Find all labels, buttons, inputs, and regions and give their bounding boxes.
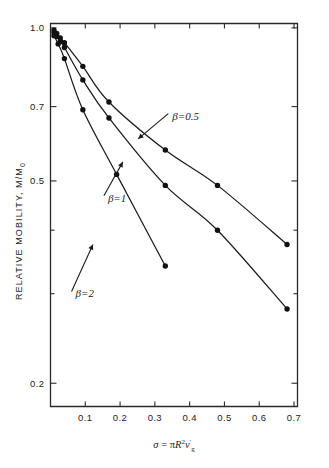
x-tick-label: 0.6 — [252, 412, 266, 423]
data-point — [215, 183, 220, 188]
x-axis-ticks — [85, 24, 294, 407]
data-point — [284, 306, 289, 311]
y-axis-title: RELATIVE MOBILITY, M/M0 — [14, 162, 26, 300]
x-tick-label: 0.3 — [148, 412, 162, 423]
y-axis-tick-labels: 1.00.70.50.2 — [30, 22, 44, 388]
data-point — [215, 227, 220, 232]
x-axis-tick-labels: 0.10.20.30.40.50.60.7 — [78, 412, 301, 423]
data-point — [106, 115, 111, 120]
data-points — [51, 27, 289, 311]
annotation-label: β=1 — [107, 192, 126, 204]
y-tick-label: 0.5 — [30, 175, 44, 186]
svg-text:RELATIVE MOBILITY, M/M0: RELATIVE MOBILITY, M/M0 — [14, 162, 26, 300]
annotation-label: β=0.5 — [171, 110, 199, 122]
plot-frame — [51, 24, 298, 407]
curve-beta-2 — [54, 36, 165, 266]
data-point — [284, 242, 289, 247]
y-tick-label: 0.2 — [30, 378, 44, 389]
data-point — [80, 77, 85, 82]
y-axis-ticks — [51, 28, 298, 383]
x-tick-label: 0.1 — [78, 412, 92, 423]
annotation-label: β=2 — [75, 287, 95, 299]
x-axis-title: σ = πR2ν′g — [153, 438, 195, 453]
x-tick-label: 0.7 — [287, 412, 301, 423]
data-point — [62, 56, 67, 61]
curve-beta-0p5 — [54, 30, 287, 244]
x-tick-label: 0.2 — [113, 412, 127, 423]
data-curves — [54, 30, 287, 309]
figure-panel: 0.10.20.30.40.50.60.7 1.00.70.50.2 β=0.5… — [0, 0, 329, 468]
series-annotations: β=0.5β=1β=2 — [72, 110, 200, 300]
chart-svg: 0.10.20.30.40.50.60.7 1.00.70.50.2 β=0.5… — [0, 0, 329, 468]
data-point — [163, 147, 168, 152]
data-point — [163, 263, 168, 268]
data-point — [80, 107, 85, 112]
data-point — [62, 45, 67, 50]
data-point — [80, 64, 85, 69]
x-tick-label: 0.4 — [182, 412, 196, 423]
data-point — [163, 183, 168, 188]
y-tick-label: 0.7 — [30, 101, 44, 112]
data-point — [106, 99, 111, 104]
curve-beta-1 — [54, 32, 287, 309]
x-tick-label: 0.5 — [217, 412, 231, 423]
data-point — [51, 33, 56, 38]
svg-text:σ = πR2ν′g: σ = πR2ν′g — [153, 438, 195, 453]
data-point — [55, 41, 60, 46]
y-tick-label: 1.0 — [30, 22, 44, 33]
